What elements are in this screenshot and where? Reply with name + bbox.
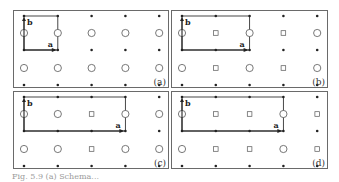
vector-b-label: b [185, 17, 191, 27]
lattice-dot [215, 84, 218, 87]
open-circle-site [122, 64, 129, 71]
vector-b-label: b [27, 17, 33, 27]
panel-label: (d) [312, 158, 325, 168]
lattice-dot [181, 165, 184, 168]
vector-a-label: a [48, 39, 53, 49]
lattice-dot [57, 49, 60, 52]
lattice-dot [57, 84, 60, 87]
arrowhead-b-icon [22, 98, 26, 102]
lattice-dot [282, 84, 285, 87]
lattice-dot [57, 15, 60, 18]
lattice-dot [57, 96, 60, 99]
open-circle-site [280, 145, 287, 152]
lattice-dot [181, 84, 184, 87]
open-circle-site [178, 64, 185, 71]
lattice-dot [124, 96, 127, 99]
lattice-dot [282, 165, 285, 168]
open-circle-site [122, 29, 129, 36]
lattice-dot [57, 165, 60, 168]
lattice-dot [282, 15, 285, 18]
lattice-dot [158, 96, 161, 99]
open-circle-site [156, 29, 163, 36]
open-square-site [214, 112, 219, 117]
open-circle-site [246, 64, 253, 71]
vector-a-label: a [240, 39, 245, 49]
lattice-dot [181, 96, 184, 99]
open-circle-site [20, 64, 27, 71]
open-square-site [281, 31, 286, 36]
panel-d: ba(d) [171, 91, 328, 169]
vector-a-label: a [273, 120, 278, 130]
unit-cell [24, 97, 125, 131]
open-circle-site [314, 64, 321, 71]
open-square-site [247, 112, 252, 117]
lattice-dot [90, 84, 93, 87]
open-circle-site [54, 145, 61, 152]
open-circle-site [178, 145, 185, 152]
panel-c: ba(c) [13, 91, 169, 169]
open-square-site [281, 66, 286, 71]
lattice-dot [124, 165, 127, 168]
figure-caption: Fig. 5.9 (a) Schema... [12, 172, 99, 181]
lattice-dot [215, 96, 218, 99]
open-square-site [89, 112, 94, 117]
open-circle-site [122, 110, 129, 117]
open-circle-site [246, 29, 253, 36]
vector-b-label: b [185, 98, 191, 108]
lattice-figure: ba(a) ba(b) ba(c) ba(d) Fig. 5.9 (a) Sch… [0, 0, 339, 182]
lattice-dot [90, 165, 93, 168]
lattice-dot [316, 96, 319, 99]
open-circle-site [54, 110, 61, 117]
open-square-site [214, 66, 219, 71]
lattice-dot [90, 49, 93, 52]
open-circle-site [88, 64, 95, 71]
lattice-dot [124, 15, 127, 18]
open-square-site [89, 147, 94, 152]
lattice-dot [282, 130, 285, 133]
open-square-site [315, 147, 320, 152]
lattice-dot [158, 15, 161, 18]
unit-cell [182, 97, 283, 131]
lattice-dot [23, 165, 26, 168]
lattice-dot [248, 49, 251, 52]
vector-a-label: a [115, 120, 120, 130]
lattice-dot [23, 84, 26, 87]
lattice-dot [158, 130, 161, 133]
arrowhead-b-icon [22, 17, 26, 21]
lattice-dot [124, 130, 127, 133]
open-circle-site [156, 110, 163, 117]
panel-label: (c) [154, 158, 166, 168]
lattice-dot [90, 15, 93, 18]
open-circle-site [122, 145, 129, 152]
panel-b: ba(b) [171, 10, 328, 88]
open-circle-site [156, 64, 163, 71]
lattice-dot [181, 15, 184, 18]
open-circle-site [54, 64, 61, 71]
lattice-dot [248, 84, 251, 87]
panel-label: (a) [154, 77, 166, 87]
lattice-dot [215, 15, 218, 18]
lattice-dot [158, 49, 161, 52]
lattice-dot [90, 96, 93, 99]
lattice-dot [124, 84, 127, 87]
lattice-dot [215, 165, 218, 168]
panel-label: (b) [312, 77, 325, 87]
lattice-dot [248, 15, 251, 18]
lattice-dot [124, 49, 127, 52]
arrowhead-b-icon [180, 17, 184, 21]
open-circle-site [88, 29, 95, 36]
lattice-dot [248, 165, 251, 168]
open-square-site [247, 147, 252, 152]
open-circle-site [280, 110, 287, 117]
open-circle-site [314, 29, 321, 36]
open-circle-site [156, 145, 163, 152]
arrowhead-b-icon [180, 98, 184, 102]
vector-b-label: b [27, 98, 33, 108]
lattice-dot [282, 96, 285, 99]
lattice-dot [248, 96, 251, 99]
open-circle-site [20, 145, 27, 152]
open-circle-site [54, 29, 61, 36]
lattice-dot [316, 15, 319, 18]
open-square-site [315, 112, 320, 117]
lattice-dot [23, 96, 26, 99]
